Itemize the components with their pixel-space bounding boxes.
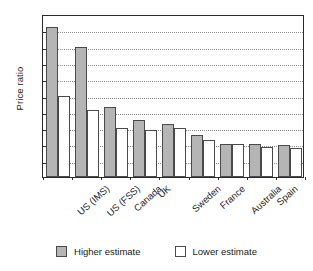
x-tick-mark xyxy=(130,177,131,180)
bar-group xyxy=(278,145,303,177)
x-category-label: Sweden xyxy=(190,183,223,214)
bar-group xyxy=(132,120,157,177)
bar xyxy=(162,124,174,177)
chart-legend: Higher estimateLower estimate xyxy=(0,246,313,257)
bar-chart-figure: Price ratio 00·511·522·533·544·55 US (IM… xyxy=(0,0,313,271)
x-tick-mark xyxy=(159,177,160,180)
x-tick-mark xyxy=(247,177,248,180)
x-tick-mark xyxy=(189,177,190,180)
bar xyxy=(58,96,70,178)
plot-area: 00·511·522·533·544·55 xyxy=(42,15,304,178)
bar-series-group xyxy=(43,16,303,177)
bar-group xyxy=(220,144,245,177)
bar xyxy=(232,144,244,177)
bar xyxy=(133,120,145,177)
bar-group xyxy=(74,47,99,177)
bar xyxy=(278,145,290,177)
bar-group xyxy=(103,107,128,177)
bar xyxy=(191,135,203,177)
bar xyxy=(249,144,261,177)
bar-group xyxy=(162,124,187,177)
x-tick-mark xyxy=(218,177,219,180)
legend-swatch xyxy=(56,246,67,257)
x-tick-mark xyxy=(72,177,73,180)
x-tick-mark xyxy=(43,177,44,180)
bar xyxy=(290,148,302,177)
bar-group xyxy=(191,135,216,177)
bar xyxy=(116,128,128,177)
x-tick-mark xyxy=(101,177,102,180)
x-category-label: France xyxy=(218,183,247,211)
bar xyxy=(87,110,99,177)
bar xyxy=(261,147,273,177)
x-tick-mark xyxy=(276,177,277,180)
bar xyxy=(203,140,215,177)
legend-label: Higher estimate xyxy=(74,246,141,257)
legend-item: Lower estimate xyxy=(175,246,257,257)
bar-group xyxy=(45,27,70,177)
bar xyxy=(174,128,186,177)
y-axis-title: Price ratio xyxy=(14,39,25,139)
legend-swatch xyxy=(175,246,186,257)
bar xyxy=(75,47,87,177)
legend-label: Lower estimate xyxy=(193,246,257,257)
bar xyxy=(46,27,58,177)
bar-group xyxy=(249,144,274,177)
bar xyxy=(145,130,157,177)
legend-item: Higher estimate xyxy=(56,246,141,257)
bar xyxy=(104,107,116,177)
bar xyxy=(220,144,232,177)
x-category-label: New Zealand xyxy=(312,183,313,229)
x-tick-mark xyxy=(305,177,306,180)
